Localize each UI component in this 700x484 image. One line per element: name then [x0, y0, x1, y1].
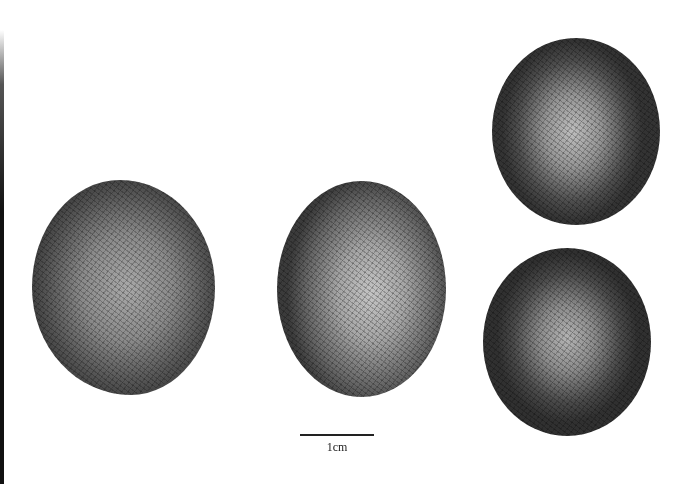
- seed-specimen-top-right: [492, 38, 660, 225]
- scale-bar-label: 1cm: [300, 440, 374, 455]
- seed-specimen-middle: [277, 181, 446, 397]
- scale-bar: [300, 434, 374, 436]
- seed-specimen-bottom-right: [483, 248, 651, 436]
- left-image-edge: [0, 30, 4, 484]
- seed-specimen-left: [32, 180, 215, 395]
- seed-surface-texture: [492, 38, 660, 225]
- seed-surface-texture: [277, 181, 446, 397]
- seed-surface-texture: [32, 180, 215, 395]
- seed-surface-texture: [483, 248, 651, 436]
